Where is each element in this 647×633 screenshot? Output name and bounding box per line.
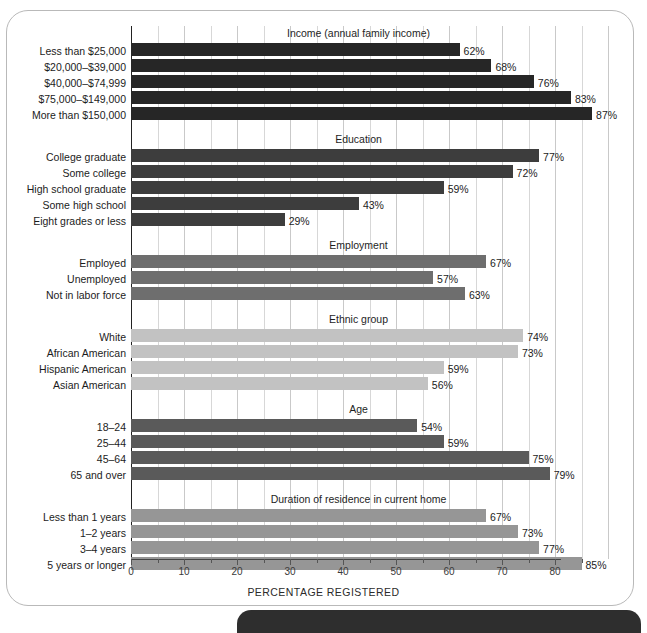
chart-row: $40,000–$74,99976% xyxy=(131,75,586,88)
category-label: $20,000–$39,000 xyxy=(44,62,126,73)
chart-section-2: EmploymentEmployed67%Unemployed57%Not in… xyxy=(131,238,586,312)
x-tick-15 xyxy=(211,559,212,563)
bar xyxy=(131,377,428,390)
category-label: Less than 1 years xyxy=(43,512,126,523)
section-title: Duration of residence in current home xyxy=(131,492,586,506)
chart-section-5: Duration of residence in current homeLes… xyxy=(131,492,586,582)
bar-value-label: 73% xyxy=(522,348,543,359)
bar xyxy=(131,435,444,448)
bar xyxy=(131,197,359,210)
chart-row: Some high school43% xyxy=(131,197,586,210)
chart-row: More than $150,00087% xyxy=(131,107,586,120)
x-tick-label-40: 40 xyxy=(328,566,358,577)
x-tick-label-60: 60 xyxy=(434,566,464,577)
chart-section-0: Income (annual family income)Less than $… xyxy=(131,26,586,132)
chart-row: 3–4 years77% xyxy=(131,541,586,554)
chart-row: Some college72% xyxy=(131,165,586,178)
chart-row: 18–2454% xyxy=(131,419,586,432)
bar-value-label: 67% xyxy=(490,258,511,269)
x-tick-45 xyxy=(370,559,371,563)
bottom-tab-decoration xyxy=(237,610,641,633)
x-tick-40 xyxy=(343,559,344,565)
category-label: 5 years or longer xyxy=(47,560,126,571)
category-label: 65 and over xyxy=(71,470,126,481)
chart-row: Not in labor force63% xyxy=(131,287,586,300)
x-tick-label-80: 80 xyxy=(540,566,570,577)
x-tick-30 xyxy=(290,559,291,565)
x-tick-label-30: 30 xyxy=(275,566,305,577)
bar xyxy=(131,287,465,300)
x-tick-label-20: 20 xyxy=(222,566,252,577)
bar xyxy=(131,165,513,178)
bar-value-label: 59% xyxy=(448,364,469,375)
bar xyxy=(131,509,486,522)
bar-value-label: 85% xyxy=(586,560,607,571)
bar xyxy=(131,419,417,432)
category-label: $75,000–$149,000 xyxy=(38,94,126,105)
x-axis-title: PERCENTAGE REGISTERED xyxy=(0,586,647,598)
bar xyxy=(131,329,523,342)
chart-row: $20,000–$39,00068% xyxy=(131,59,586,72)
section-title: Income (annual family income) xyxy=(131,26,586,40)
bar-value-label: 83% xyxy=(575,94,596,105)
category-label: $40,000–$74,999 xyxy=(44,78,126,89)
x-tick-80 xyxy=(555,559,556,565)
bar xyxy=(131,213,285,226)
section-title: Employment xyxy=(131,238,586,252)
x-tick-label-50: 50 xyxy=(381,566,411,577)
bar xyxy=(131,149,539,162)
category-label: High school graduate xyxy=(27,184,126,195)
category-label: More than $150,000 xyxy=(32,110,126,121)
chart-row: High school graduate59% xyxy=(131,181,586,194)
bar-value-label: 79% xyxy=(554,470,575,481)
bar-value-label: 29% xyxy=(289,216,310,227)
x-tick-85 xyxy=(582,559,583,563)
bar-value-label: 75% xyxy=(533,454,554,465)
bar-value-label: 87% xyxy=(596,110,617,121)
bar-value-label: 74% xyxy=(527,332,548,343)
bar-value-label: 76% xyxy=(538,78,559,89)
bar-value-label: 62% xyxy=(464,46,485,57)
bar xyxy=(131,467,550,480)
category-label: Not in labor force xyxy=(46,290,126,301)
category-label: 1–2 years xyxy=(80,528,126,539)
bar-value-label: 56% xyxy=(432,380,453,391)
category-label: Employed xyxy=(79,258,126,269)
category-label: Some high school xyxy=(43,200,126,211)
bar xyxy=(131,541,539,554)
category-label: 45–64 xyxy=(97,454,126,465)
bar xyxy=(131,361,444,374)
chart-row: Eight grades or less29% xyxy=(131,213,586,226)
x-tick-label-10: 10 xyxy=(169,566,199,577)
bar-value-label: 54% xyxy=(421,422,442,433)
chart-row: 45–6475% xyxy=(131,451,586,464)
x-tick-75 xyxy=(529,559,530,563)
category-label: Eight grades or less xyxy=(33,216,126,227)
bar-value-label: 68% xyxy=(495,62,516,73)
bar xyxy=(131,181,444,194)
x-tick-25 xyxy=(264,559,265,563)
chart-row: African American73% xyxy=(131,345,586,358)
category-label: Hispanic American xyxy=(39,364,126,375)
bar xyxy=(131,451,529,464)
chart-row: Less than $25,00062% xyxy=(131,43,586,56)
bar-value-label: 67% xyxy=(490,512,511,523)
chart-row: Unemployed57% xyxy=(131,271,586,284)
x-tick-20 xyxy=(237,559,238,565)
x-tick-65 xyxy=(476,559,477,563)
bar xyxy=(131,91,571,104)
bar-value-label: 59% xyxy=(448,184,469,195)
chart-row: Hispanic American59% xyxy=(131,361,586,374)
category-label: Less than $25,000 xyxy=(40,46,126,57)
category-label: College graduate xyxy=(46,152,126,163)
bar xyxy=(131,255,486,268)
chart-row: White74% xyxy=(131,329,586,342)
chart-row: 25–4459% xyxy=(131,435,586,448)
bar-value-label: 77% xyxy=(543,152,564,163)
chart-row: 65 and over79% xyxy=(131,467,586,480)
bar xyxy=(131,43,460,56)
chart-row: $75,000–$149,00083% xyxy=(131,91,586,104)
x-tick-10 xyxy=(184,559,185,565)
gridline-90 xyxy=(608,26,609,559)
category-label: Asian American xyxy=(53,380,126,391)
